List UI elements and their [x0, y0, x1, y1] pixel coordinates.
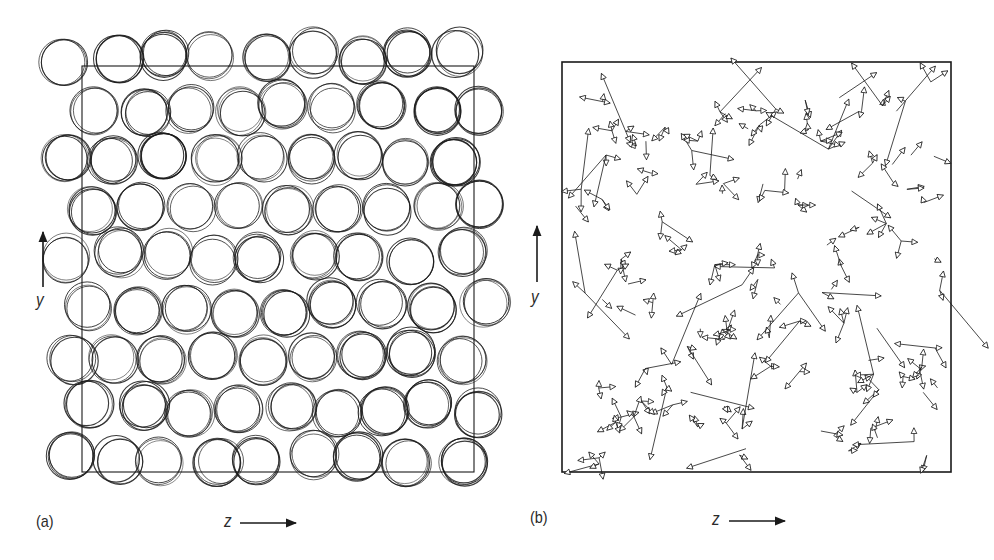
displacement-arrow-icon	[562, 189, 582, 191]
displacement-arrow-icon	[660, 222, 662, 240]
particle-circle	[315, 185, 362, 232]
particle-circle	[119, 182, 165, 228]
displacement-arrow-icon	[599, 458, 603, 479]
displacement-arrow-icon	[617, 306, 636, 315]
displacement-arrow-icon	[698, 424, 705, 427]
displacement-arrow-icon	[857, 305, 874, 374]
displacement-arrow-icon	[621, 259, 622, 274]
displacement-arrow-icon	[881, 164, 893, 183]
displacement-arrow-icon	[692, 151, 694, 170]
particle-circle	[292, 431, 339, 478]
displacement-arrow-icon	[911, 142, 922, 155]
displacement-arrow-icon	[839, 227, 860, 237]
displacement-arrow-icon	[771, 259, 774, 268]
particle-circle	[166, 392, 211, 437]
displacement-arrow-icon	[821, 431, 843, 435]
particle-circle	[125, 92, 170, 137]
particle-circle	[165, 285, 211, 331]
displacement-arrow-icon	[844, 308, 848, 324]
displacement-arrow-icon	[687, 346, 711, 385]
displacement-arrow-icon	[646, 141, 647, 160]
particle-circle	[43, 238, 88, 283]
particle-circle	[43, 233, 90, 280]
particle-circle	[259, 83, 305, 129]
panel-a-y-axis-label: y	[36, 290, 44, 311]
particle-circle	[289, 27, 336, 74]
displacement-arrow-icon	[627, 181, 637, 195]
displacement-arrow-icon	[822, 293, 881, 296]
panel-a-circles	[39, 27, 511, 487]
particle-circle	[46, 135, 91, 180]
particle-circle	[49, 432, 94, 477]
particle-circle	[312, 391, 358, 437]
particle-circle	[271, 385, 317, 431]
displacement-arrow-icon	[634, 396, 641, 416]
displacement-arrow-icon	[740, 455, 752, 470]
particle-circle	[217, 182, 262, 227]
displacement-arrow-icon	[935, 348, 946, 368]
displacement-arrow-icon	[720, 112, 727, 122]
displacement-arrow-icon	[934, 156, 951, 163]
particle-circle	[126, 89, 171, 134]
particle-circle	[360, 83, 406, 129]
particle-circle	[96, 36, 143, 83]
displacement-arrow-icon	[696, 181, 719, 184]
displacement-arrow-icon	[883, 96, 891, 105]
displacement-arrow-icon	[785, 372, 799, 389]
particle-circle	[66, 285, 111, 330]
displacement-arrow-icon	[800, 321, 811, 326]
particle-circle	[121, 90, 167, 136]
particle-circle	[464, 279, 510, 325]
displacement-arrow-icon	[757, 293, 798, 340]
particle-circle	[41, 40, 86, 85]
particle-circle	[186, 32, 232, 78]
particle-circle	[310, 83, 355, 128]
displacement-arrow-icon	[621, 252, 631, 259]
particle-circle	[339, 39, 384, 84]
displacement-arrow-icon	[924, 195, 944, 202]
displacement-arrow-icon	[659, 127, 665, 141]
displacement-arrow-icon	[841, 266, 849, 283]
displacement-arrow-icon	[799, 293, 826, 331]
displacement-arrow-icon	[758, 184, 763, 203]
particle-circle	[241, 136, 287, 182]
particle-circle	[138, 336, 185, 383]
displacement-arrow-icon	[645, 362, 680, 369]
displacement-arrow-icon	[818, 130, 821, 141]
particle-circle	[334, 132, 381, 179]
displacement-arrow-icon	[858, 163, 873, 177]
displacement-arrow-icon	[852, 191, 891, 218]
particle-circle	[437, 339, 482, 384]
panel-b-arrows	[562, 58, 989, 479]
particle-circle	[140, 133, 186, 179]
displacement-arrow-icon	[603, 102, 611, 104]
particle-circle	[405, 382, 451, 428]
particle-circle	[190, 332, 237, 379]
particle-circle	[289, 31, 336, 78]
particle-circle	[290, 430, 336, 476]
particle-circle	[437, 31, 483, 77]
particle-circle	[192, 138, 239, 185]
particle-circle	[232, 435, 279, 482]
particle-circle	[99, 228, 144, 273]
displacement-arrow-icon	[593, 127, 612, 130]
displacement-arrow-icon	[715, 265, 720, 282]
particle-circle	[289, 137, 336, 184]
particle-circle	[235, 232, 281, 278]
displacement-arrow-icon	[807, 123, 808, 130]
displacement-arrow-icon	[875, 417, 878, 431]
displacement-arrow-icon	[651, 173, 658, 174]
displacement-arrow-icon	[766, 113, 828, 150]
particle-circle	[409, 284, 454, 329]
particle-circle	[386, 441, 431, 486]
particle-circle	[290, 337, 335, 382]
displacement-arrow-icon	[599, 452, 605, 458]
particle-circle	[337, 132, 382, 177]
particle-circle	[146, 228, 193, 275]
particle-circle	[240, 335, 287, 382]
displacement-arrow-icon	[923, 392, 937, 409]
displacement-arrow-icon	[752, 255, 758, 268]
particle-circle	[363, 183, 410, 230]
particle-circle	[339, 37, 386, 84]
displacement-arrow-icon	[643, 300, 653, 303]
